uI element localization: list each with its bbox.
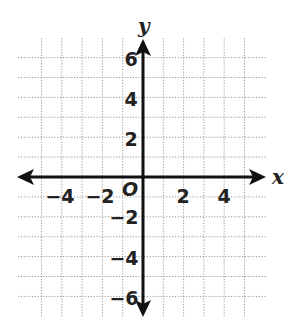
origin-label: O bbox=[122, 178, 138, 200]
x-tick-neg4: −4 bbox=[45, 185, 74, 207]
x-tick-neg2: −2 bbox=[85, 185, 114, 207]
x-tick-4: 4 bbox=[217, 185, 230, 207]
x-axis-label: x bbox=[271, 165, 285, 189]
y-tick-2: 2 bbox=[124, 128, 137, 150]
y-tick-neg6: −6 bbox=[109, 287, 138, 309]
y-tick-neg4: −4 bbox=[109, 247, 138, 269]
y-tick-6: 6 bbox=[124, 48, 137, 70]
y-axis-label: y bbox=[137, 14, 151, 38]
y-tick-neg2: −2 bbox=[109, 206, 138, 228]
x-tick-2: 2 bbox=[176, 185, 189, 207]
y-tick-4: 4 bbox=[124, 88, 137, 110]
coordinate-plane: x y O −4 −2 2 4 6 4 2 −2 −4 −6 bbox=[0, 0, 302, 330]
